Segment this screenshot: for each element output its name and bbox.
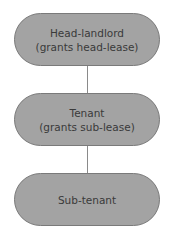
node-label: Head-landlord xyxy=(50,26,124,40)
node-sublabel: (grants sub-lease) xyxy=(39,120,135,134)
node-sub-tenant: Sub-tenant xyxy=(14,173,160,226)
node-label: Sub-tenant xyxy=(58,193,116,207)
node-sublabel: (grants head-lease) xyxy=(36,40,139,54)
node-tenant: Tenant (grants sub-lease) xyxy=(14,93,160,146)
node-label: Tenant xyxy=(70,106,105,120)
connector-head-to-tenant xyxy=(87,66,88,93)
node-head-landlord: Head-landlord (grants head-lease) xyxy=(14,13,160,66)
connector-tenant-to-subtenant xyxy=(87,146,88,173)
